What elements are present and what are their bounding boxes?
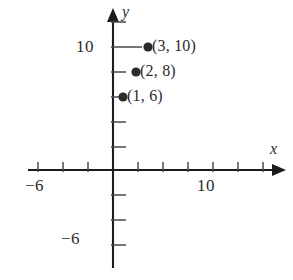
point-label-3-10: (3, 10) xyxy=(152,37,196,55)
y-axis-label-neg6: −6 xyxy=(61,229,80,249)
point-label-2-8: (2, 8) xyxy=(140,62,176,80)
x-axis-arrowhead xyxy=(272,164,286,176)
x-axis-name: x xyxy=(270,140,277,158)
y-axis-arrowhead xyxy=(107,8,119,22)
coordinate-plane-figure: 10 −6 −6 10 x y (3, 10) (2, 8) (1, 6) xyxy=(0,0,293,280)
x-axis-label-10: 10 xyxy=(197,176,215,196)
y-axis-label-10: 10 xyxy=(76,37,94,57)
y-axis-name: y xyxy=(122,3,129,21)
point-label-1-6: (1, 6) xyxy=(127,87,163,105)
x-axis-label-neg6: −6 xyxy=(25,176,44,196)
coordinate-axes-graphic xyxy=(0,0,293,280)
